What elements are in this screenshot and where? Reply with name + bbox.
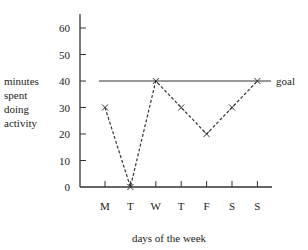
y-tick-label: 60 [59,22,71,34]
x-tick-label: S [254,200,260,212]
y-axis-label: minutes spent doing activity [4,74,64,130]
goal-label: goal [276,75,295,87]
y-axis-label-line: minutes [4,74,64,88]
x-tick-label: T [127,200,134,212]
x-axis-label: days of the week [0,232,308,244]
y-axis-label-line: activity [4,116,64,130]
y-axis-label-line: doing [4,102,64,116]
x-tick-label: F [204,200,210,212]
y-tick-label: 0 [65,181,71,193]
y-tick-label: 10 [59,155,71,167]
x-tick-label: T [178,200,185,212]
y-axis-label-line: spent [4,88,64,102]
y-tick-label: 50 [59,49,71,61]
x-tick-label: M [100,200,110,212]
x-tick-label: W [151,200,162,212]
data-line [105,81,257,187]
x-tick-label: S [229,200,235,212]
